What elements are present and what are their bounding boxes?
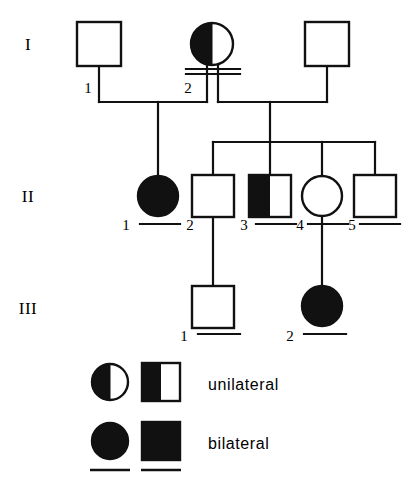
pedigree-diagram: I II III (0, 0, 420, 490)
generation-label-III: III (19, 299, 37, 318)
individual-number: 4 (296, 217, 304, 233)
symbol-square-left-half-filled (249, 175, 270, 217)
legend-circle-left-half-filled (92, 364, 110, 400)
symbol-square-unaffected (192, 286, 234, 328)
symbol-square-unaffected (305, 22, 349, 66)
individual-number: 1 (84, 80, 92, 96)
symbol-circle-filled (138, 176, 178, 216)
individual-number: 1 (122, 217, 130, 233)
legend-square-left-half-filled (142, 363, 161, 401)
symbol-circle-filled (302, 286, 342, 326)
generation-label-I: I (25, 35, 31, 54)
individual-I-3[interactable] (305, 22, 349, 66)
individual-number: 1 (180, 328, 188, 344)
legend-row-bilateral: bilateral (90, 422, 269, 470)
symbol-square-unaffected (77, 22, 121, 66)
symbol-square-unaffected (192, 175, 234, 217)
symbol-square-unaffected (354, 175, 396, 217)
individual-number: 2 (286, 328, 294, 344)
individual-number: 2 (186, 217, 194, 233)
legend-label-unilateral: unilateral (208, 376, 279, 393)
individual-number: 3 (240, 217, 248, 233)
individual-number: 5 (348, 217, 356, 233)
symbol-circle-left-half-filled (191, 23, 212, 65)
individual-II-2[interactable]: 2 (186, 175, 234, 233)
generation-label-II: II (22, 187, 34, 206)
symbol-circle-unaffected (302, 176, 342, 216)
individual-I-2[interactable]: 2 (184, 23, 233, 96)
legend: unilateral bilateral (90, 363, 279, 470)
legend-circle-filled (92, 423, 128, 459)
legend-label-bilateral: bilateral (208, 435, 269, 452)
individual-III-1[interactable]: 1 (180, 286, 234, 344)
individual-III-2[interactable]: 2 (286, 286, 342, 344)
pedigree-chart: I II III (0, 0, 420, 490)
legend-row-unilateral: unilateral (92, 363, 279, 401)
legend-square-filled (142, 422, 180, 460)
individual-number: 2 (184, 80, 192, 96)
